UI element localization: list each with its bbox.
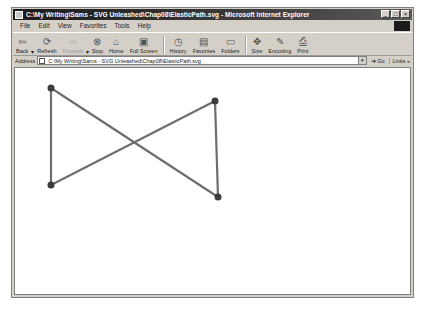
menu-help[interactable]: Help [138, 22, 151, 29]
menu-view[interactable]: View [58, 22, 72, 29]
page-content [14, 67, 411, 295]
stop-button[interactable]: ⊗ Stop [89, 36, 106, 55]
home-icon: ⌂ [113, 36, 119, 48]
encoding-icon: ✎ [276, 36, 284, 48]
favorites-button[interactable]: ▤ Favorites [190, 36, 219, 55]
menu-bar: File Edit View Favorites Tools Help [13, 20, 412, 31]
browser-window: C:\My Writing\Sams - SVG Unleashed\Chap0… [11, 7, 414, 298]
history-icon: ◷ [174, 36, 183, 48]
page-icon [39, 58, 45, 64]
title-bar[interactable]: C:\My Writing\Sams - SVG Unleashed\Chap0… [13, 9, 412, 20]
folders-button[interactable]: ▭ Folders [218, 36, 242, 55]
refresh-button[interactable]: ⟳ Refresh [34, 36, 59, 55]
stop-icon: ⊗ [93, 36, 101, 48]
toolbar-separator [163, 36, 165, 54]
vertex-handle-top-left[interactable] [48, 85, 55, 92]
links-button[interactable]: Links » [389, 58, 410, 64]
window-title: C:\My Writing\Sams - SVG Unleashed\Chap0… [26, 11, 309, 18]
forward-arrow-icon: ⇨ [69, 36, 77, 48]
print-icon: ⎙ [299, 36, 307, 48]
folders-icon: ▭ [226, 36, 235, 48]
elastic-path-drawing [15, 68, 411, 295]
encoding-button[interactable]: ✎ Encoding [265, 36, 294, 55]
windows-throbber-icon [394, 21, 410, 31]
back-button[interactable]: ⇦ Back [13, 36, 31, 55]
print-button[interactable]: ⎙ Print [294, 36, 311, 55]
address-bar: Address C:\My Writing\Sams - SVG Unleash… [13, 55, 412, 66]
address-input[interactable]: C:\My Writing\Sams - SVG Unleashed\Chap0… [37, 56, 367, 65]
menu-file[interactable]: File [20, 22, 30, 29]
standard-toolbar: ⇦ Back ▾ ⟳ Refresh ⇨ Forward ▾ ⊗ Stop ⌂ … [13, 32, 412, 56]
address-dropdown-icon[interactable]: ▾ [358, 57, 366, 64]
history-button[interactable]: ◷ History [167, 36, 190, 55]
menu-favorites[interactable]: Favorites [80, 22, 107, 29]
address-value: C:\My Writing\Sams - SVG Unleashed\Chap0… [48, 58, 201, 64]
size-icon: ✥ [253, 36, 261, 48]
close-button[interactable]: × [401, 10, 410, 18]
toolbar-separator [245, 36, 247, 54]
home-button[interactable]: ⌂ Home [106, 36, 127, 55]
size-button[interactable]: ✥ Size [249, 36, 266, 55]
refresh-icon: ⟳ [43, 36, 51, 48]
go-button[interactable]: ➜ Go [371, 58, 385, 64]
vertex-handle-top-right[interactable] [212, 98, 219, 105]
fullscreen-icon: ▣ [139, 36, 148, 48]
vertex-handle-bottom-left[interactable] [48, 182, 55, 189]
ie-logo-icon [15, 11, 23, 19]
forward-button[interactable]: ⇨ Forward [60, 36, 86, 55]
elastic-path-line [51, 88, 218, 197]
favorites-icon: ▤ [199, 36, 208, 48]
go-arrow-icon: ➜ [371, 58, 376, 64]
minimize-button[interactable]: _ [381, 10, 390, 18]
menu-tools[interactable]: Tools [114, 22, 129, 29]
address-label: Address [15, 58, 35, 64]
vertex-handle-bottom-right[interactable] [215, 194, 222, 201]
menu-edit[interactable]: Edit [38, 22, 49, 29]
maximize-button[interactable]: □ [391, 10, 400, 18]
back-arrow-icon: ⇦ [18, 36, 26, 48]
fullscreen-button[interactable]: ▣ Full Screen [127, 36, 161, 55]
